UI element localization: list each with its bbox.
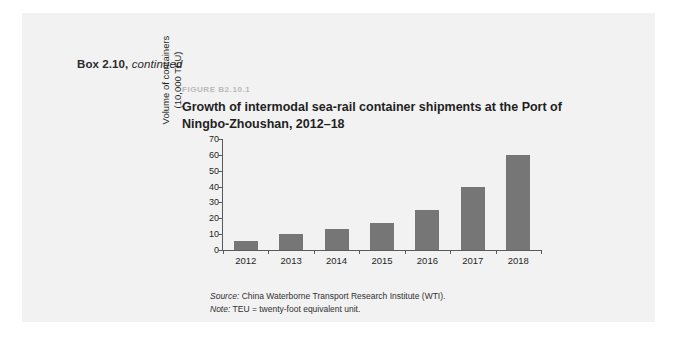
x-tick-label: 2015 xyxy=(359,256,404,266)
bar-slot xyxy=(405,139,450,250)
x-tick-label: 2012 xyxy=(223,256,268,266)
bar-2015 xyxy=(370,223,394,250)
y-tick-mark xyxy=(218,139,222,140)
bar-2018 xyxy=(506,155,530,250)
note-label: Note: xyxy=(210,304,230,314)
x-tick-label: 2016 xyxy=(405,256,450,266)
x-tick-mark xyxy=(359,250,360,254)
figure-title: Growth of intermodal sea-rail container … xyxy=(182,99,582,132)
figure-footnotes: Source: China Waterborne Transport Resea… xyxy=(210,290,445,316)
figure-block: FIGURE B2.10.1 Growth of intermodal sea-… xyxy=(182,85,602,132)
box-label: Box 2.10, xyxy=(77,58,128,70)
y-tick-mark xyxy=(218,234,222,235)
x-tick-mark xyxy=(405,250,406,254)
x-tick-mark xyxy=(268,250,269,254)
bar-2012 xyxy=(234,241,258,251)
bar-slot xyxy=(496,139,541,250)
x-tick-label: 2018 xyxy=(496,256,541,266)
bar-slot xyxy=(223,139,268,250)
bar-series xyxy=(223,139,541,250)
y-axis-title-line1: Volume of containers xyxy=(160,36,172,125)
plot-area: 010203040506070 201220132014201520162017… xyxy=(201,139,565,279)
bar-2014 xyxy=(325,229,349,250)
x-axis-tick-marks xyxy=(223,250,541,254)
y-axis-tick-labels: 010203040506070 xyxy=(201,139,219,250)
box-header: Box 2.10, continued xyxy=(77,58,182,70)
y-tick-mark xyxy=(218,202,222,203)
x-tick-mark xyxy=(541,250,542,254)
x-tick-mark xyxy=(496,250,497,254)
source-label: Source: xyxy=(210,291,239,301)
bar-slot xyxy=(450,139,495,250)
source-line: Source: China Waterborne Transport Resea… xyxy=(210,290,445,303)
y-tick-mark xyxy=(218,155,222,156)
figure-number-label: FIGURE B2.10.1 xyxy=(182,85,602,94)
source-text: China Waterborne Transport Research Inst… xyxy=(239,291,445,301)
box-panel: Box 2.10, continued FIGURE B2.10.1 Growt… xyxy=(22,13,655,322)
y-tick-mark xyxy=(218,250,222,251)
bar-2017 xyxy=(461,187,485,250)
note-line: Note: TEU = twenty-foot equivalent unit. xyxy=(210,303,445,316)
x-tick-label: 2017 xyxy=(450,256,495,266)
x-tick-label: 2014 xyxy=(314,256,359,266)
x-axis-tick-labels: 2012201320142015201620172018 xyxy=(223,256,541,266)
bar-slot xyxy=(314,139,359,250)
y-tick-mark xyxy=(218,171,222,172)
x-tick-mark xyxy=(450,250,451,254)
y-tick-mark xyxy=(218,187,222,188)
bar-slot xyxy=(359,139,404,250)
bar-2013 xyxy=(279,234,303,250)
page-root: Box 2.10, continued FIGURE B2.10.1 Growt… xyxy=(0,0,688,340)
x-tick-mark xyxy=(223,250,224,254)
y-tick-mark xyxy=(218,218,222,219)
bar-2016 xyxy=(415,210,439,250)
box-continued-label: continued xyxy=(132,58,183,70)
note-text: TEU = twenty-foot equivalent unit. xyxy=(230,304,360,314)
bar-chart: Volume of containers (10,000 TEU) 010203… xyxy=(165,139,565,279)
bar-slot xyxy=(268,139,313,250)
x-tick-label: 2013 xyxy=(268,256,313,266)
x-tick-mark xyxy=(314,250,315,254)
